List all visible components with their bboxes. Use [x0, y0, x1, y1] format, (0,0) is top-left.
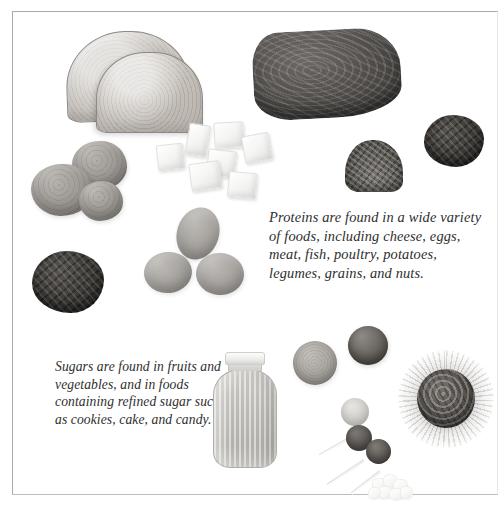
- caption-proteins: Proteins are found in a wide variety of …: [269, 208, 485, 283]
- cake-on-doily: [398, 350, 494, 448]
- sugar-cube: [241, 132, 274, 165]
- sugar-cube: [188, 160, 223, 192]
- sugar-cube: [213, 121, 244, 149]
- legumes-cluster-left: [32, 251, 104, 313]
- chopped-nuts-pile: [345, 140, 403, 192]
- potato: [79, 181, 123, 221]
- caption-sugars: Sugars are found in fruits and vegetable…: [55, 358, 227, 429]
- sugar-cube: [227, 171, 258, 199]
- honey-jar: [213, 352, 275, 466]
- apple-fruit: [348, 326, 388, 365]
- egg: [195, 251, 246, 296]
- lollipop-head: [366, 439, 391, 464]
- candy-piece: [368, 487, 381, 499]
- lollipop-stick: [327, 459, 365, 486]
- candy-piece: [400, 486, 413, 499]
- lollipop-head: [341, 398, 369, 426]
- bread-slice-front: [96, 52, 203, 133]
- meat-steak: [251, 26, 403, 122]
- cake: [417, 369, 475, 428]
- sugar-cube: [156, 143, 186, 172]
- legumes-cluster-right: [424, 115, 484, 167]
- jar-lid: [225, 352, 265, 365]
- jar-body: [213, 369, 277, 468]
- illustration-page: Proteins are found in a wide variety of …: [0, 0, 504, 508]
- orange-fruit: [293, 341, 337, 385]
